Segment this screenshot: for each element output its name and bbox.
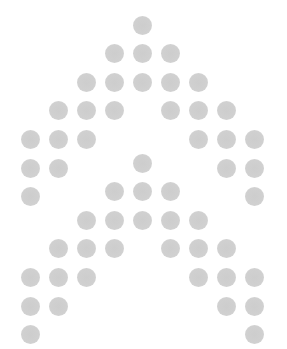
dot (133, 211, 152, 230)
dot (217, 239, 236, 258)
dot (161, 182, 180, 201)
dot (245, 130, 264, 149)
dot (77, 73, 96, 92)
dot (77, 130, 96, 149)
dot (77, 239, 96, 258)
dot (133, 154, 152, 173)
dot (161, 44, 180, 63)
dot (217, 130, 236, 149)
dot (77, 101, 96, 120)
dot (133, 44, 152, 63)
dot (105, 239, 124, 258)
dot (245, 297, 264, 316)
dot (133, 16, 152, 35)
dot (77, 211, 96, 230)
dot (245, 325, 264, 344)
dot (245, 187, 264, 206)
dot (49, 297, 68, 316)
dot (161, 211, 180, 230)
dot (49, 130, 68, 149)
dot (49, 268, 68, 287)
dot (133, 73, 152, 92)
dot (77, 268, 96, 287)
dot (217, 297, 236, 316)
dot (189, 268, 208, 287)
dot (161, 101, 180, 120)
dot (217, 101, 236, 120)
dot (49, 239, 68, 258)
dot (21, 268, 40, 287)
dot (105, 101, 124, 120)
dot (217, 159, 236, 178)
dot (21, 187, 40, 206)
dot (189, 211, 208, 230)
dot (161, 239, 180, 258)
dot (217, 268, 236, 287)
dot (245, 159, 264, 178)
dot (21, 297, 40, 316)
dot (21, 325, 40, 344)
dot (21, 159, 40, 178)
dot (105, 211, 124, 230)
dot (21, 130, 40, 149)
dot (189, 101, 208, 120)
dot (189, 239, 208, 258)
dot (49, 159, 68, 178)
dot (189, 130, 208, 149)
dot (189, 73, 208, 92)
dot (161, 73, 180, 92)
dot (105, 73, 124, 92)
dot (49, 101, 68, 120)
dot (105, 182, 124, 201)
dot (245, 268, 264, 287)
dot (133, 182, 152, 201)
dot (105, 44, 124, 63)
